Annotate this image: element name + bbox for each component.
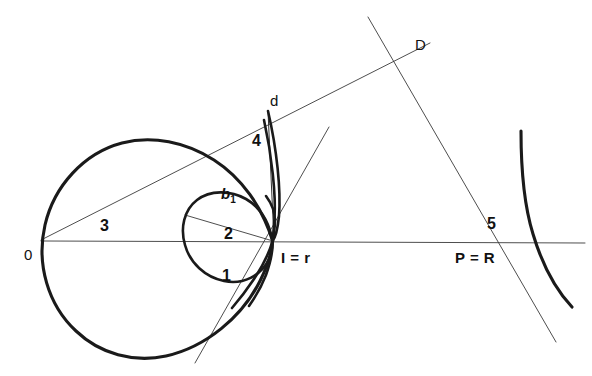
label-origin: 0 bbox=[24, 247, 32, 262]
label-P-equals-R: P = R bbox=[455, 250, 495, 265]
baseline-axis bbox=[41, 241, 585, 243]
label-segment-3: 3 bbox=[100, 218, 109, 234]
label-arc-5: 5 bbox=[487, 216, 496, 232]
label-I-equals-r: I = r bbox=[281, 250, 311, 265]
curve-1-large-circle bbox=[42, 140, 272, 359]
diagram-canvas: 0 3 2 b1 1 4 d D I = r P = R 5 bbox=[0, 0, 592, 376]
label-b1-letter: b bbox=[221, 185, 230, 202]
curve-5-right-arc bbox=[521, 131, 572, 307]
label-curve-1: 1 bbox=[222, 268, 231, 284]
tangent-line-at-P bbox=[368, 17, 556, 342]
geometry-figure bbox=[0, 0, 592, 376]
label-segment-4: 4 bbox=[252, 133, 261, 149]
ray-origin-to-D bbox=[41, 43, 430, 240]
label-circle-2: 2 bbox=[224, 226, 233, 242]
label-b1: b1 bbox=[221, 186, 236, 205]
label-point-d: d bbox=[270, 93, 278, 108]
label-point-D: D bbox=[415, 37, 426, 52]
label-b1-subscript: 1 bbox=[230, 194, 236, 205]
